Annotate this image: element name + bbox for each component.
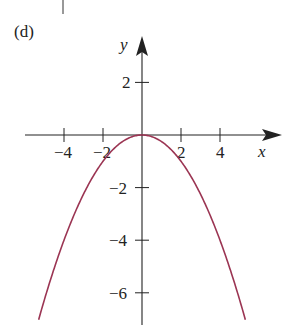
x-tick-label: 2: [177, 143, 186, 162]
x-tick-label: 4: [216, 143, 225, 162]
y-tick-label: −2: [109, 179, 127, 198]
x-axis-label: x: [257, 142, 266, 161]
axes: [25, 36, 282, 325]
x-tick-label: −2: [93, 143, 111, 162]
tick-labels: xy−4−2242−2−4−6: [54, 35, 266, 303]
y-tick-label: 2: [122, 73, 131, 92]
y-axis-label: y: [118, 35, 128, 54]
x-tick-label: −4: [54, 143, 73, 162]
y-tick-label: −4: [109, 231, 128, 250]
y-tick-label: −6: [109, 284, 127, 303]
parabola-chart: xy−4−2242−2−4−6: [0, 0, 293, 329]
